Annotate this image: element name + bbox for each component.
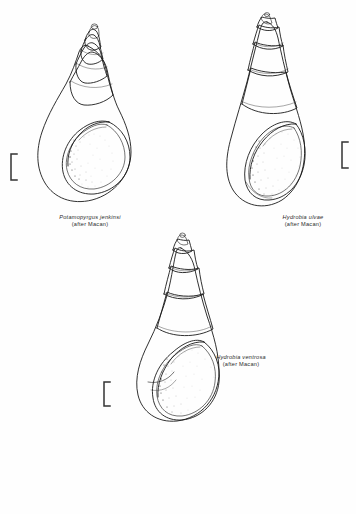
figure-hydrobia-ulvae (212, 12, 328, 218)
shell-drawing-hydrobia-ulvae (212, 12, 328, 218)
species-name-hydrobia-ventrosa: Hydrobia ventrosa (186, 354, 296, 361)
shell-drawing-potamopyrgus-jenkinsi (14, 18, 146, 214)
aperture-stipple (71, 134, 113, 188)
caption-hydrobia-ventrosa: Hydrobia ventrosa (after Macan) (186, 354, 296, 368)
scale-bar-right (339, 140, 351, 170)
scale-bar-left (8, 152, 20, 182)
bracket-icon (101, 380, 113, 408)
caption-hydrobia-ulvae: Hydrobia ulvae (after Macan) (248, 214, 356, 228)
attribution-hydrobia-ventrosa: (after Macan) (186, 361, 296, 368)
columella-shadow (69, 140, 79, 180)
attribution-potamopyrgus-jenkinsi: (after Macan) (0, 221, 180, 228)
figure-hydrobia-ventrosa (118, 232, 242, 438)
shell-drawing-hydrobia-ventrosa (118, 232, 242, 438)
scale-bar-bottom (101, 380, 113, 408)
bracket-icon (339, 140, 351, 170)
bracket-icon (8, 152, 20, 182)
attribution-hydrobia-ulvae: (after Macan) (248, 221, 356, 228)
caption-potamopyrgus-jenkinsi: Potamopyrgus jenkinsi (after Macan) (0, 214, 180, 228)
illustration-plate: Potamopyrgus jenkinsi (after Macan) (0, 0, 356, 514)
figure-potamopyrgus-jenkinsi (14, 18, 146, 214)
species-name-potamopyrgus-jenkinsi: Potamopyrgus jenkinsi (0, 214, 180, 221)
species-name-hydrobia-ulvae: Hydrobia ulvae (248, 214, 356, 221)
